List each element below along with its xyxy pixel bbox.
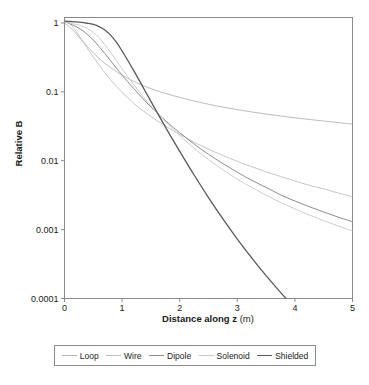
legend-swatch-dipole — [149, 355, 164, 356]
y-tick-label: 0.1 — [0, 87, 59, 97]
chart-legend: LoopWireDipoleSolenoidShielded — [54, 345, 316, 366]
x-tick-label: 4 — [285, 303, 305, 313]
legend-item-shielded[interactable]: Shielded — [257, 351, 308, 361]
legend-swatch-wire — [106, 355, 121, 356]
legend-label-shielded: Shielded — [275, 351, 308, 361]
x-tick-label: 3 — [227, 303, 247, 313]
plot-frame — [65, 18, 353, 299]
chart-figure: 10.10.010.0010.0001 012345 Relative B Di… — [0, 0, 369, 385]
legend-label-loop: Loop — [80, 351, 99, 361]
y-tick-label: 0.001 — [0, 225, 59, 235]
axis-ticks — [61, 23, 353, 302]
legend-item-loop[interactable]: Loop — [62, 351, 99, 361]
x-axis-title: Distance along z (m) — [64, 313, 352, 324]
y-tick-label: 0.01 — [0, 156, 59, 166]
legend-item-solenoid[interactable]: Solenoid — [199, 351, 250, 361]
series-line-wire — [65, 21, 353, 197]
legend-swatch-loop — [62, 355, 77, 356]
y-tick-label: 0.0001 — [0, 294, 59, 304]
series-line-loop — [65, 23, 353, 124]
legend-item-wire[interactable]: Wire — [106, 351, 141, 361]
legend-swatch-shielded — [257, 355, 272, 356]
legend-swatch-solenoid — [199, 355, 214, 356]
legend-label-solenoid: Solenoid — [217, 351, 250, 361]
legend-label-dipole: Dipole — [167, 351, 191, 361]
plot-canvas — [0, 0, 369, 385]
x-tick-label: 1 — [112, 303, 132, 313]
x-tick-label: 5 — [343, 303, 363, 313]
x-axis-unit-text: (m) — [240, 313, 254, 324]
legend-label-wire: Wire — [124, 351, 141, 361]
x-tick-label: 2 — [170, 303, 190, 313]
series-line-dipole — [65, 21, 353, 221]
legend-item-dipole[interactable]: Dipole — [149, 351, 191, 361]
x-axis-title-main: Distance along z — [162, 313, 237, 324]
series-line-solenoid — [65, 22, 353, 231]
x-tick-label: 0 — [55, 303, 75, 313]
y-axis-title: Relative B — [13, 104, 24, 184]
y-tick-label: 1 — [0, 18, 59, 28]
